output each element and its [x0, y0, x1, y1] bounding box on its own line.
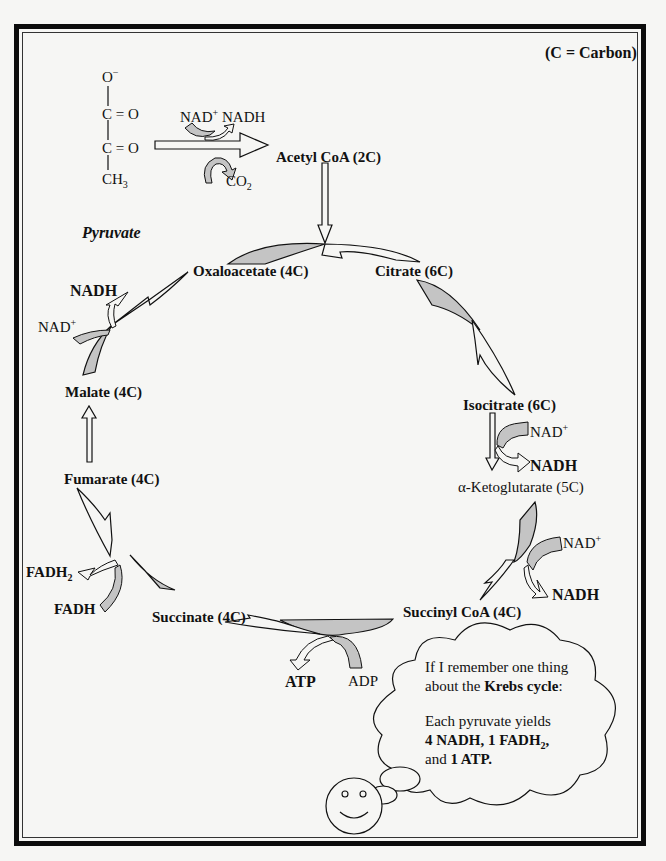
oxaloacetate-label: Oxaloacetate (4C): [193, 264, 308, 279]
fumarate-up-arrow-icon: [82, 406, 96, 462]
pyruvate-nadh-label: NADH: [222, 110, 265, 125]
malate-nad-plus-label: NAD+: [38, 320, 76, 335]
krebs-cycle-page: (C = Carbon) O− C = O C = O CH3 Pyruvate…: [0, 0, 666, 861]
citrate-label: Citrate (6C): [375, 264, 453, 279]
fumarate-white-arrow-icon: [77, 488, 112, 556]
pyruvate-carbonyl-2: C = O: [102, 141, 139, 156]
succinyl-coa-label: Succinyl CoA (4C): [403, 605, 521, 620]
ketoglutarate-nad-plus-label: NAD+: [563, 536, 601, 551]
isocitrate-nadh-arrow-icon: [495, 446, 530, 472]
note-line-5: and 1 ATP.: [425, 750, 568, 769]
pyruvate-methyl: CH3: [102, 172, 128, 187]
isocitrate-white-arrow-icon: [472, 320, 515, 395]
note-line-2: about the Krebs cycle:: [425, 677, 568, 696]
alpha-ketoglutarate-label: α-Ketoglutarate (5C): [458, 480, 584, 495]
nad-curl-arrow-icon: [185, 123, 215, 136]
acetyl-down-arrow-icon: [318, 163, 332, 243]
pyruvate-label: Pyruvate: [82, 225, 141, 241]
note-line-3: Each pyruvate yields: [425, 712, 568, 731]
fadh2-label: FADH2: [26, 565, 72, 580]
isocitrate-label: Isocitrate (6C): [463, 398, 556, 413]
succinyl-white-arrow-icon: [480, 560, 514, 600]
thought-bubble-text: If I remember one thing about the Krebs …: [425, 658, 568, 769]
carbon-legend: (C = Carbon): [545, 45, 637, 61]
atp-out-arrow-icon: [290, 636, 333, 670]
adp-in-arrow-icon: [330, 636, 362, 668]
malate-label: Malate (4C): [65, 385, 142, 400]
pyruvate-oxygen-atom: O−: [102, 70, 118, 85]
ketoglutarate-nadh-label: NADH: [552, 587, 599, 603]
citrate-white-arrow-icon: [322, 244, 420, 262]
adp-label: ADP: [348, 674, 378, 689]
citrate-gray-arrow-icon: [417, 280, 480, 330]
smiley-face-icon: [326, 778, 382, 834]
succinate-gray-arrow-icon: [130, 555, 175, 590]
pyruvate-nad-plus-label: NAD+: [180, 110, 218, 125]
atp-label: ATP: [285, 674, 316, 690]
note-line-4: 4 NADH, 1 FADH2,: [425, 731, 568, 750]
fadh2-out-arrow-icon: [78, 560, 118, 580]
note-line-1: If I remember one thing: [425, 658, 568, 677]
ketoglutarate-nadh-arrow-icon: [524, 565, 548, 598]
isocitrate-nad-arrow-icon: [497, 422, 528, 448]
succinate-label: Succinate (4C): [152, 610, 246, 625]
fadh-in-arrow-icon: [100, 565, 122, 612]
isocitrate-nad-plus-label: NAD+: [530, 425, 568, 440]
isocitrate-nadh-label: NADH: [530, 458, 577, 474]
oxaloacetate-gray-arrow-icon: [228, 243, 325, 264]
fadh-label: FADH: [54, 602, 95, 617]
co2-label: CO2: [226, 174, 252, 189]
pyruvate-carbonyl-1: C = O: [102, 107, 139, 122]
ketoglutarate-nad-arrow-icon: [527, 537, 562, 570]
malate-nadh-label: NADH: [70, 283, 117, 299]
fumarate-label: Fumarate (4C): [64, 472, 159, 487]
acetyl-coa-label: Acetyl CoA (2C): [276, 150, 381, 165]
